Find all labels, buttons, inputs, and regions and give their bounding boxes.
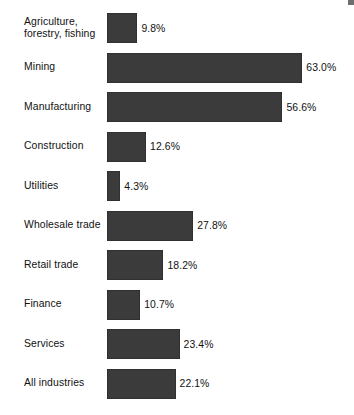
chart-row: Mining63.0% xyxy=(0,48,354,88)
bar-group: 56.6% xyxy=(107,92,316,122)
chart-row: Manufacturing56.6% xyxy=(0,87,354,127)
chart-row: All industries22.1% xyxy=(0,364,354,404)
bar-value-label: 4.3% xyxy=(124,181,148,192)
category-label: Finance xyxy=(24,298,106,310)
bar-value-label: 9.8% xyxy=(141,23,165,34)
bar xyxy=(107,211,193,241)
chart-row: Wholesale trade27.8% xyxy=(0,206,354,246)
category-label: Mining xyxy=(24,61,106,73)
bar-value-label: 10.7% xyxy=(144,299,174,310)
bar-group: 4.3% xyxy=(107,171,148,201)
bar xyxy=(107,171,120,201)
bar xyxy=(107,53,302,83)
bar-value-label: 18.2% xyxy=(167,260,197,271)
bar-group: 12.6% xyxy=(107,132,180,162)
bar-group: 63.0% xyxy=(107,53,336,83)
bar-group: 10.7% xyxy=(107,290,174,320)
category-label: Construction xyxy=(24,140,106,152)
chart-row: Agriculture, forestry, fishing9.8% xyxy=(0,8,354,48)
category-label: Manufacturing xyxy=(24,101,106,113)
category-label: All industries xyxy=(24,377,106,389)
bar-chart: Agriculture, forestry, fishing9.8%Mining… xyxy=(0,0,354,415)
bar-value-label: 63.0% xyxy=(306,62,336,73)
chart-row: Retail trade18.2% xyxy=(0,245,354,285)
bar-value-label: 56.6% xyxy=(286,102,316,113)
category-label: Services xyxy=(24,338,106,350)
bar xyxy=(107,13,137,43)
chart-row: Finance10.7% xyxy=(0,285,354,325)
bar xyxy=(107,369,176,399)
bar xyxy=(107,329,180,359)
bar xyxy=(107,290,140,320)
bar-group: 18.2% xyxy=(107,250,197,280)
bar-value-label: 22.1% xyxy=(180,378,210,389)
bar-group: 23.4% xyxy=(107,329,214,359)
scan-artifact-mark xyxy=(348,0,354,5)
category-label: Agriculture, forestry, fishing xyxy=(24,16,106,40)
bar-group: 27.8% xyxy=(107,211,227,241)
category-label: Utilities xyxy=(24,180,106,192)
bar-value-label: 12.6% xyxy=(150,141,180,152)
category-label: Wholesale trade xyxy=(24,219,106,231)
chart-row: Construction12.6% xyxy=(0,127,354,167)
bar-value-label: 23.4% xyxy=(184,339,214,350)
bar-group: 22.1% xyxy=(107,369,209,399)
bar xyxy=(107,250,163,280)
chart-row: Services23.4% xyxy=(0,324,354,364)
bar xyxy=(107,132,146,162)
chart-rows: Agriculture, forestry, fishing9.8%Mining… xyxy=(0,8,354,403)
bar-group: 9.8% xyxy=(107,13,165,43)
bar-value-label: 27.8% xyxy=(197,220,227,231)
bar xyxy=(107,92,282,122)
chart-row: Utilities4.3% xyxy=(0,166,354,206)
category-label: Retail trade xyxy=(24,259,106,271)
